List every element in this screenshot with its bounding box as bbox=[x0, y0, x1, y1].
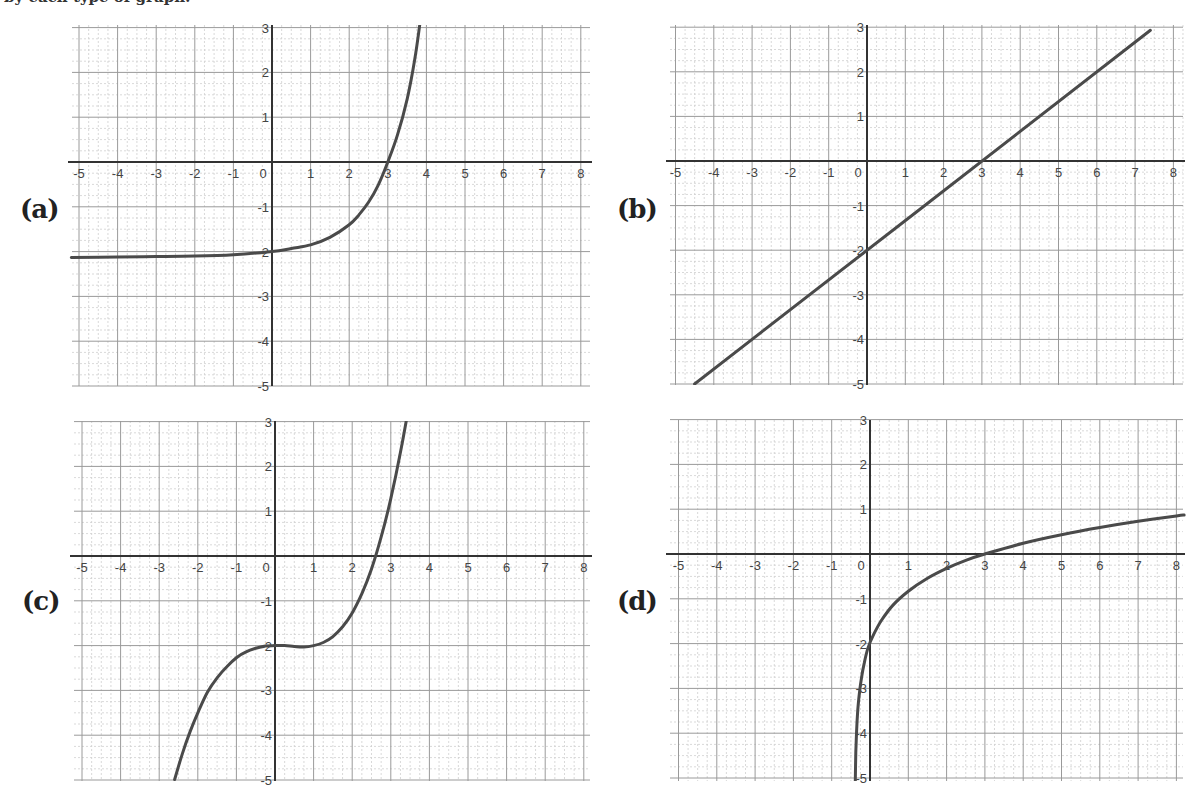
svg-text:-1: -1 bbox=[852, 199, 864, 214]
svg-text:2: 2 bbox=[346, 166, 353, 181]
svg-text:-4: -4 bbox=[852, 332, 864, 347]
svg-text:1: 1 bbox=[310, 560, 317, 575]
svg-text:2: 2 bbox=[262, 65, 269, 80]
svg-text:5: 5 bbox=[461, 166, 468, 181]
svg-text:0: 0 bbox=[854, 165, 861, 180]
svg-text:-1: -1 bbox=[260, 594, 272, 609]
svg-text:6: 6 bbox=[500, 166, 507, 181]
major-grid bbox=[74, 421, 590, 781]
svg-text:5: 5 bbox=[1058, 558, 1065, 573]
svg-text:1: 1 bbox=[307, 166, 314, 181]
svg-text:6: 6 bbox=[503, 560, 510, 575]
svg-text:-2: -2 bbox=[788, 558, 800, 573]
svg-text:4: 4 bbox=[423, 166, 430, 181]
svg-text:1: 1 bbox=[860, 502, 867, 517]
svg-text:1: 1 bbox=[905, 558, 912, 573]
svg-text:3: 3 bbox=[265, 415, 272, 430]
graph-panel-d: -5-4-3-2-1012345678321-1-2-3-4-5 bbox=[666, 413, 1185, 786]
svg-text:3: 3 bbox=[860, 413, 867, 428]
svg-text:-5: -5 bbox=[855, 771, 867, 786]
svg-text:-3: -3 bbox=[153, 560, 165, 575]
svg-text:2: 2 bbox=[265, 459, 272, 474]
svg-text:3: 3 bbox=[981, 558, 988, 573]
svg-text:3: 3 bbox=[857, 20, 864, 35]
svg-text:-3: -3 bbox=[150, 166, 162, 181]
svg-text:-3: -3 bbox=[257, 289, 269, 304]
svg-text:-2: -2 bbox=[192, 560, 204, 575]
svg-text:5: 5 bbox=[464, 560, 471, 575]
svg-text:7: 7 bbox=[539, 166, 546, 181]
graph-panel-c: -5-4-3-2-1012345678321-1-2-3-4-5 bbox=[70, 297, 592, 788]
svg-text:-1: -1 bbox=[257, 200, 269, 215]
svg-text:-1: -1 bbox=[855, 592, 867, 607]
svg-text:7: 7 bbox=[1134, 558, 1141, 573]
svg-text:-4: -4 bbox=[257, 334, 269, 349]
svg-text:-5: -5 bbox=[73, 166, 85, 181]
figure-stage: by each type of graph: (a) (b) (c) (d) -… bbox=[0, 0, 1197, 794]
major-grid bbox=[72, 25, 590, 386]
svg-text:8: 8 bbox=[1170, 165, 1177, 180]
minor-grid bbox=[72, 25, 590, 386]
graph-panels: -5-4-3-2-1012345678321-1-2-3-4-5 -5-4-3-… bbox=[0, 0, 1197, 794]
graph-panel-b: -5-4-3-2-1012345678321-1-2-3-4-5 bbox=[666, 20, 1185, 392]
graph-panel-a: -5-4-3-2-1012345678321-1-2-3-4-5 bbox=[68, 19, 592, 394]
svg-text:0: 0 bbox=[857, 558, 864, 573]
svg-text:0: 0 bbox=[262, 560, 269, 575]
svg-text:-4: -4 bbox=[711, 558, 723, 573]
svg-text:4: 4 bbox=[426, 560, 433, 575]
svg-text:2: 2 bbox=[857, 65, 864, 80]
minor-grid bbox=[670, 420, 1183, 781]
svg-text:4: 4 bbox=[1020, 558, 1027, 573]
svg-text:-5: -5 bbox=[673, 558, 685, 573]
svg-text:-1: -1 bbox=[231, 560, 243, 575]
svg-text:-1: -1 bbox=[228, 166, 240, 181]
svg-text:-2: -2 bbox=[189, 166, 201, 181]
svg-text:7: 7 bbox=[542, 560, 549, 575]
svg-text:4: 4 bbox=[1017, 165, 1024, 180]
svg-text:-1: -1 bbox=[826, 558, 838, 573]
svg-text:3: 3 bbox=[387, 560, 394, 575]
svg-text:-4: -4 bbox=[115, 560, 127, 575]
svg-text:8: 8 bbox=[580, 560, 587, 575]
svg-text:-5: -5 bbox=[260, 773, 272, 788]
svg-text:-3: -3 bbox=[260, 683, 272, 698]
major-grid bbox=[670, 420, 1183, 781]
svg-text:8: 8 bbox=[1173, 558, 1180, 573]
svg-text:2: 2 bbox=[940, 165, 947, 180]
svg-text:1: 1 bbox=[857, 109, 864, 124]
svg-text:-2: -2 bbox=[855, 637, 867, 652]
svg-text:1: 1 bbox=[902, 165, 909, 180]
svg-text:-5: -5 bbox=[76, 560, 88, 575]
svg-text:-3: -3 bbox=[746, 165, 758, 180]
svg-text:-5: -5 bbox=[852, 377, 864, 392]
svg-text:7: 7 bbox=[1131, 165, 1138, 180]
svg-text:8: 8 bbox=[577, 166, 584, 181]
function-curve bbox=[695, 30, 1151, 384]
svg-text:-2: -2 bbox=[785, 165, 797, 180]
svg-text:3: 3 bbox=[978, 165, 985, 180]
svg-text:-1: -1 bbox=[823, 165, 835, 180]
svg-text:2: 2 bbox=[349, 560, 356, 575]
svg-text:0: 0 bbox=[259, 166, 266, 181]
svg-text:1: 1 bbox=[265, 504, 272, 519]
svg-text:-5: -5 bbox=[670, 165, 682, 180]
svg-text:-3: -3 bbox=[749, 558, 761, 573]
svg-text:2: 2 bbox=[860, 457, 867, 472]
svg-text:-3: -3 bbox=[852, 288, 864, 303]
svg-text:-4: -4 bbox=[260, 728, 272, 743]
svg-text:1: 1 bbox=[262, 110, 269, 125]
svg-text:6: 6 bbox=[1096, 558, 1103, 573]
svg-text:3: 3 bbox=[262, 21, 269, 36]
svg-text:-4: -4 bbox=[112, 166, 124, 181]
svg-text:5: 5 bbox=[1055, 165, 1062, 180]
svg-text:-4: -4 bbox=[708, 165, 720, 180]
svg-text:6: 6 bbox=[1093, 165, 1100, 180]
svg-text:-5: -5 bbox=[257, 379, 269, 394]
